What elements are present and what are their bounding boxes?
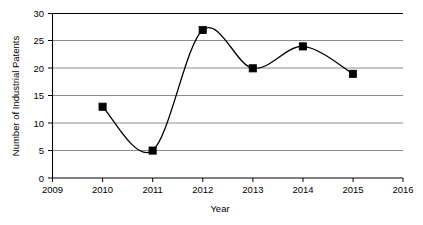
x-tick-label-2015: 2015 bbox=[343, 184, 364, 195]
y-tick-label-25: 25 bbox=[33, 35, 44, 46]
y-tick-label-15: 15 bbox=[33, 90, 44, 101]
data-point-2012 bbox=[199, 26, 206, 33]
data-point-2015 bbox=[349, 70, 356, 77]
x-tick-label-2011: 2011 bbox=[142, 184, 162, 195]
y-tick-label-20: 20 bbox=[33, 63, 44, 74]
x-tick-label-2014: 2014 bbox=[292, 184, 313, 195]
y-tick-label-0: 0 bbox=[39, 173, 44, 184]
y-tick-label-10: 10 bbox=[33, 118, 44, 129]
line-chart: 30 25 20 15 10 5 0 2009 2010 2011 2012 2… bbox=[0, 0, 423, 225]
x-axis-title: Year bbox=[210, 203, 229, 214]
x-tick-label-2013: 2013 bbox=[242, 184, 263, 195]
x-tick-label-2016: 2016 bbox=[392, 184, 413, 195]
data-point-2011 bbox=[149, 147, 156, 154]
x-tick-label-2009: 2009 bbox=[42, 184, 63, 195]
y-axis-title: Number of Industrial Patents bbox=[10, 36, 21, 157]
data-point-2014 bbox=[299, 43, 306, 50]
data-point-2010 bbox=[99, 103, 106, 110]
x-tick-label-2012: 2012 bbox=[192, 184, 213, 195]
y-tick-label-30: 30 bbox=[33, 8, 44, 19]
y-tick-label-5: 5 bbox=[39, 145, 44, 156]
x-tick-label-2010: 2010 bbox=[92, 184, 113, 195]
data-point-2013 bbox=[249, 65, 256, 72]
chart-canvas: 30 25 20 15 10 5 0 2009 2010 2011 2012 2… bbox=[0, 0, 423, 225]
